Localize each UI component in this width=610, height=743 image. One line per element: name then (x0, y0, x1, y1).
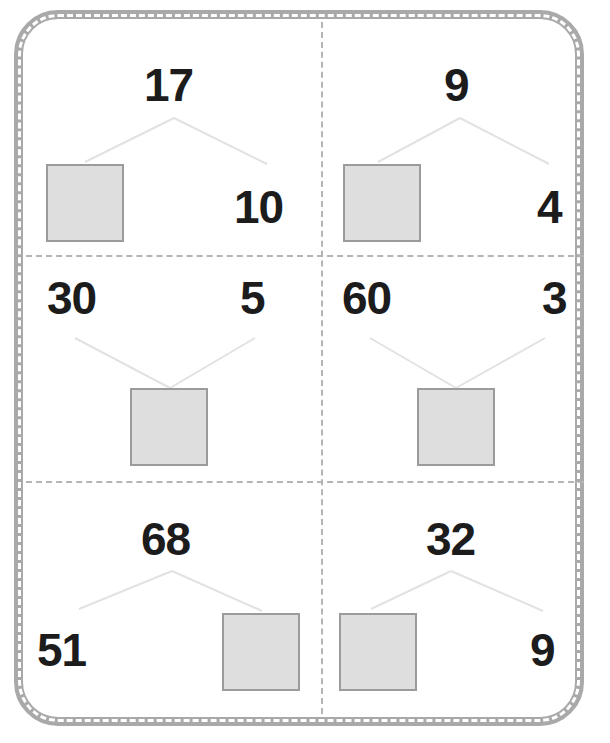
part-right-value-6: 9 (530, 627, 555, 673)
answer-box-2[interactable] (343, 164, 421, 242)
answer-box-1[interactable] (46, 164, 124, 242)
part-right-value-3: 5 (240, 275, 265, 321)
problem-cell-4: 60 3 (321, 255, 584, 481)
problem-cell-1: 17 10 (22, 22, 321, 255)
answer-box-3[interactable] (130, 388, 208, 466)
part-left-value-5: 51 (37, 627, 86, 673)
whole-value-5: 68 (141, 516, 190, 562)
problem-cell-2: 9 4 (321, 22, 584, 255)
part-right-value-1: 10 (234, 184, 283, 230)
part-right-value-4: 3 (542, 275, 567, 321)
worksheet-page: 17 10 9 4 30 5 60 3 (0, 0, 610, 743)
problem-cell-5: 68 51 (22, 481, 321, 714)
answer-box-6[interactable] (339, 613, 417, 691)
part-left-value-3: 30 (47, 275, 96, 321)
problem-cell-6: 32 9 (321, 481, 584, 714)
whole-value-6: 32 (426, 516, 475, 562)
part-left-value-4: 60 (342, 275, 391, 321)
answer-box-5[interactable] (222, 613, 300, 691)
whole-value-1: 17 (144, 62, 193, 108)
problem-cell-3: 30 5 (22, 255, 321, 481)
answer-box-4[interactable] (417, 388, 495, 466)
part-right-value-2: 4 (537, 184, 562, 230)
whole-value-2: 9 (444, 62, 469, 108)
